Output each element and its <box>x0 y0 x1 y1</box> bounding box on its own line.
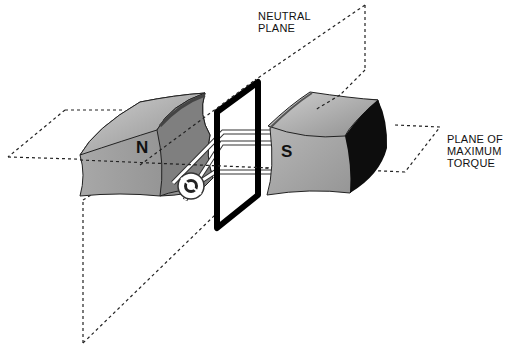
max-torque-label: PLANE OF MAXIMUM TORQUE <box>447 133 503 169</box>
north-pole-label: N <box>136 138 148 158</box>
south-pole-label: S <box>281 142 292 162</box>
label-line: TORQUE <box>447 157 503 169</box>
neutral-plane-label: NEUTRAL PLANE <box>258 10 311 34</box>
label-line: PLANE <box>258 22 311 34</box>
diagram-drawing <box>0 0 505 349</box>
label-line: MAXIMUM <box>447 145 503 157</box>
motor-diagram: N S NEUTRAL PLANE PLANE OF MAXIMUM TORQU… <box>0 0 505 349</box>
label-line: NEUTRAL <box>258 10 311 22</box>
commutator <box>178 173 204 199</box>
label-line: PLANE OF <box>447 133 503 145</box>
